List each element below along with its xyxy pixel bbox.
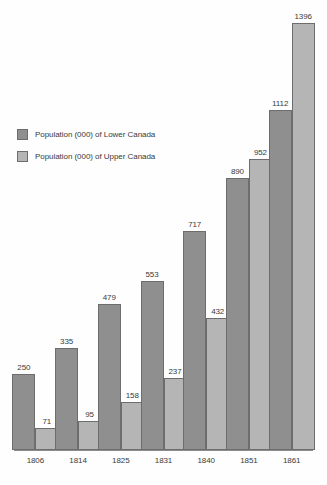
legend-swatch-lower-canada [17,129,28,140]
bar-lower-canada: 479 [98,304,121,450]
bar-value-label: 158 [126,391,139,400]
bar-group: 890952 [226,8,272,450]
population-bar-chart: 2507133595479158553237717432890952111213… [0,0,327,485]
bar-value-label: 432 [211,307,224,316]
bar-rect [292,23,315,450]
bar-value-label: 479 [103,293,116,302]
x-tick-label: 1861 [269,456,315,466]
x-axis-labels: 1806181418251831184018511861 [14,456,313,470]
bar-rect [183,231,206,450]
legend-label-lower-canada: Population (000) of Lower Canada [35,130,155,140]
bar-group: 717432 [183,8,229,450]
bar-group: 11121396 [269,8,315,450]
bar-value-label: 250 [17,363,30,372]
bar-value-label: 237 [168,367,181,376]
bar-rect [55,348,78,450]
bar-lower-canada: 553 [141,281,164,450]
bar-value-label: 335 [60,337,73,346]
bar-rect [226,178,249,450]
bar-group: 553237 [141,8,187,450]
bar-value-label: 952 [254,148,267,157]
legend-item-upper-canada: Population (000) of Upper Canada [17,149,155,164]
bar-value-label: 717 [188,220,201,229]
bar-group: 479158 [98,8,144,450]
bar-lower-canada: 717 [183,231,206,450]
x-tick-label: 1831 [141,456,187,466]
bar-upper-canada: 1396 [292,23,315,450]
bar-lower-canada: 890 [226,178,249,450]
x-tick-label: 1825 [98,456,144,466]
bar-value-label: 890 [231,167,244,176]
bar-group: 25071 [12,8,58,450]
x-tick-label: 1806 [12,456,58,466]
plot-area: 2507133595479158553237717432890952111213… [14,8,313,451]
bar-value-label: 71 [43,417,52,426]
legend-item-lower-canada: Population (000) of Lower Canada [17,127,155,142]
bar-value-label: 1112 [272,99,288,108]
x-axis-line [14,450,313,451]
bar-rect [269,110,292,450]
legend-label-upper-canada: Population (000) of Upper Canada [35,152,155,162]
bar-rect [141,281,164,450]
x-tick-label: 1851 [226,456,272,466]
bar-group: 33595 [55,8,101,450]
legend-swatch-upper-canada [17,151,28,162]
bar-rect [12,374,35,450]
bar-lower-canada: 335 [55,348,78,450]
bar-value-label: 553 [145,270,158,279]
x-tick-label: 1840 [183,456,229,466]
bar-lower-canada: 1112 [269,110,292,450]
bar-rect [98,304,121,450]
chart-legend: Population (000) of Lower Canada Populat… [17,127,155,171]
bar-value-label: 95 [85,410,94,419]
bar-lower-canada: 250 [12,374,35,450]
x-tick-label: 1814 [55,456,101,466]
bar-value-label: 1396 [294,12,311,21]
